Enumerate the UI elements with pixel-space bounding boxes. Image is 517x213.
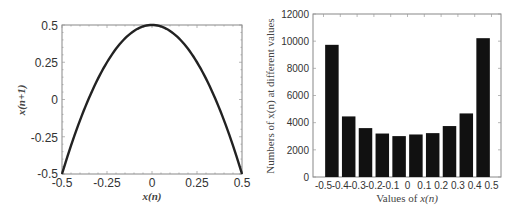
x-tick-label: 0.5 bbox=[485, 180, 499, 191]
left-x-tick-labels: -0.5 -0.25 0 0.25 0.5 bbox=[52, 176, 251, 190]
x-tick-label: 0.4 bbox=[468, 180, 482, 191]
histogram-bar bbox=[443, 126, 457, 177]
y-tick-label: 0 bbox=[51, 93, 58, 107]
x-tick-label: 0.25 bbox=[185, 176, 209, 190]
histogram-bar bbox=[460, 113, 474, 177]
left-x-axis-label: x(n) bbox=[142, 190, 162, 203]
right-x-axis-label-text: Values of bbox=[376, 192, 420, 204]
x-tick-label: 0.1 bbox=[417, 180, 431, 191]
x-tick-label: -0.4 bbox=[332, 180, 350, 191]
left-y-axis-label: x(n+1) bbox=[15, 85, 28, 117]
x-tick-label: -0.5 bbox=[52, 176, 73, 190]
x-tick-label: 0.2 bbox=[434, 180, 448, 191]
x-tick-label: 0.3 bbox=[451, 180, 465, 191]
y-tick-label: 0.25 bbox=[35, 56, 59, 70]
y-tick-label: 0.5 bbox=[41, 19, 58, 33]
right-x-tick-labels: -0.5-0.4-0.3-0.2-0.100.10.20.30.40.5 bbox=[315, 180, 499, 191]
y-tick-label: 0 bbox=[303, 172, 309, 183]
x-tick-label: -0.5 bbox=[315, 180, 333, 191]
y-tick-label: 2000 bbox=[287, 145, 310, 156]
x-tick-label: 0 bbox=[149, 176, 156, 190]
histogram-bar bbox=[426, 133, 440, 177]
figure: 0.5 0.25 0 -0.25 -0.5 -0.5 -0.25 0 0.25 … bbox=[0, 0, 517, 213]
histogram-bar bbox=[409, 134, 423, 177]
y-tick-label: 6000 bbox=[287, 90, 310, 101]
x-tick-label: -0.1 bbox=[382, 180, 400, 191]
x-tick-label: -0.25 bbox=[93, 176, 121, 190]
x-tick-label: -0.2 bbox=[365, 180, 383, 191]
x-tick-label: 0.5 bbox=[234, 176, 251, 190]
y-tick-label: -0.25 bbox=[31, 131, 59, 145]
x-tick-label: -0.3 bbox=[348, 180, 366, 191]
histogram-bar bbox=[376, 134, 390, 177]
y-tick-label: 10000 bbox=[281, 36, 309, 47]
right-x-axis-label: Values of x(n) bbox=[376, 192, 438, 205]
y-tick-label: 12000 bbox=[281, 9, 309, 20]
histogram-bar bbox=[392, 136, 406, 177]
y-tick-label: 4000 bbox=[287, 117, 310, 128]
y-tick-label: 8000 bbox=[287, 63, 310, 74]
histogram-bar bbox=[325, 45, 339, 177]
right-y-axis-label: Numbers of x(n) at different values bbox=[264, 18, 277, 173]
histogram-bar bbox=[342, 116, 356, 177]
right-chart: 0 2000 4000 6000 8000 10000 12000 -0.5-0… bbox=[264, 9, 501, 205]
right-y-tick-labels: 0 2000 4000 6000 8000 10000 12000 bbox=[281, 9, 309, 183]
x-tick-label: 0 bbox=[405, 180, 411, 191]
histogram-bar bbox=[476, 38, 490, 177]
left-y-tick-labels: 0.5 0.25 0 -0.25 -0.5 bbox=[31, 19, 59, 181]
histogram-bar bbox=[359, 128, 373, 177]
left-chart: 0.5 0.25 0 -0.25 -0.5 -0.5 -0.25 0 0.25 … bbox=[15, 19, 251, 203]
